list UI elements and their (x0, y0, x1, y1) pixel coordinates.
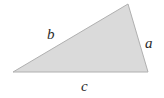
triangle-polygon (13, 4, 148, 72)
side-label-b: b (47, 27, 55, 42)
side-label-c: c (81, 79, 88, 94)
triangle-diagram: b a c (0, 0, 164, 98)
side-label-a: a (145, 36, 153, 51)
